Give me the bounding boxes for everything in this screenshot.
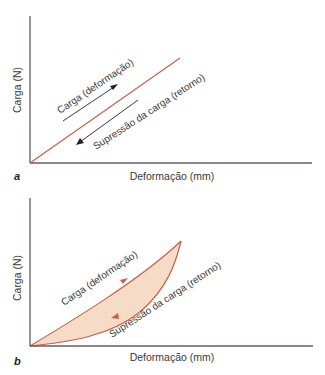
- panel-a-loading-label: Carga (deformação): [55, 56, 135, 115]
- panel-b-label: b: [14, 355, 21, 367]
- panel-b-y-axis-label: Carga (N): [11, 255, 23, 301]
- panel-a-y-axis-label: Carga (N): [11, 67, 23, 113]
- panel-b-loading-arrowhead-icon: [120, 278, 128, 284]
- diagram-canvas: Carga (deformação) Supressão da carga (r…: [0, 0, 325, 375]
- panel-a-label: a: [14, 170, 20, 182]
- panel-b: Carga (deformação) Supressão da carga (r…: [11, 198, 313, 367]
- panel-a-x-axis-label: Deformação (mm): [130, 170, 215, 182]
- panel-b-x-axis-label: Deformação (mm): [130, 351, 215, 363]
- panel-a: Carga (deformação) Supressão da carga (r…: [11, 16, 312, 182]
